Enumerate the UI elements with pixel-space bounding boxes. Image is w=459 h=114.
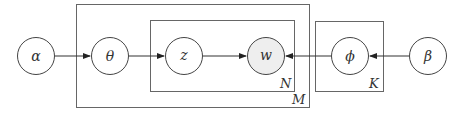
node-theta: θ [92, 38, 129, 75]
node-phi-label: ϕ [345, 48, 355, 64]
node-phi: ϕ [332, 38, 369, 75]
node-alpha: α [18, 38, 55, 75]
node-beta-label: β [423, 48, 432, 64]
node-theta-label: θ [106, 48, 115, 64]
plate-n-label: N [279, 76, 292, 91]
plate-k-label: K [368, 76, 380, 91]
node-beta: β [410, 38, 447, 75]
node-alpha-label: α [31, 48, 41, 64]
plate-m-label: M [291, 92, 306, 107]
node-z: z [166, 38, 203, 75]
node-z-label: z [179, 47, 188, 63]
node-w-observed: w [248, 38, 285, 75]
node-w-label: w [260, 47, 272, 63]
lda-plate-diagram: M N K α θ z w ϕ β [0, 0, 459, 114]
